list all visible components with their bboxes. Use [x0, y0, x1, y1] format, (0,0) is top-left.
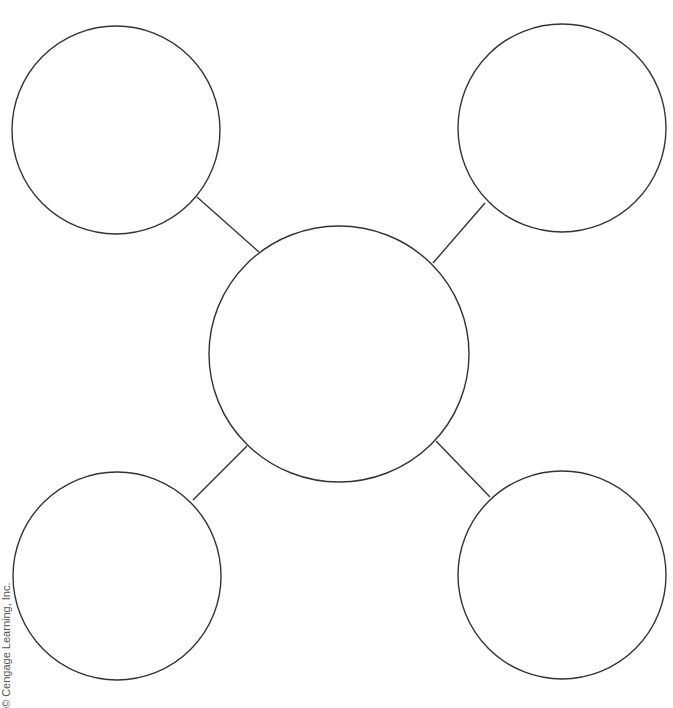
connector-bottom-left: [193, 446, 247, 500]
center-node-circle: [209, 226, 469, 482]
connector-top-right: [433, 203, 485, 263]
spider-map-diagram: [0, 0, 673, 708]
connector-top-left: [197, 197, 259, 252]
outer-node-top-left: [12, 26, 220, 234]
outer-node-bottom-left: [13, 472, 221, 680]
outer-node-top-right: [458, 24, 666, 232]
outer-node-bottom-right: [458, 471, 666, 679]
connector-bottom-right: [436, 441, 490, 497]
copyright-credit: © Cengage Learning, Inc.: [1, 582, 12, 708]
